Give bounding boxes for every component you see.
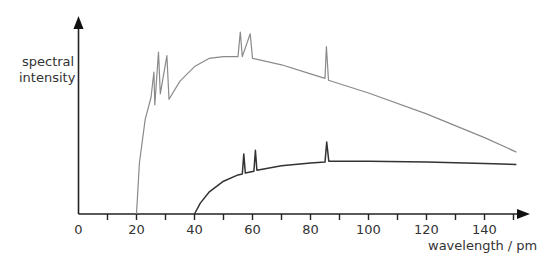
x-tick-label: 80 — [302, 222, 319, 237]
x-axis-label: wavelength / pm — [428, 238, 537, 253]
x-tick-label: 0 — [74, 222, 82, 237]
y-axis-label-line2: intensity — [19, 70, 76, 85]
x-tick-label: 100 — [356, 222, 381, 237]
x-tick-label: 40 — [186, 222, 203, 237]
y-axis-arrow-icon — [74, 16, 84, 29]
x-tick-label: 20 — [128, 222, 145, 237]
x-axis-arrow-icon — [517, 209, 530, 219]
x-tick-label: 140 — [472, 222, 497, 237]
y-axis-label-line1: spectral — [22, 54, 74, 69]
x-axis-tick-labels: 020406080100120140 — [74, 222, 497, 237]
lower-spectrum-curve — [195, 142, 517, 214]
upper-spectrum-curve — [137, 32, 517, 214]
x-tick-label: 60 — [244, 222, 261, 237]
spectrum-chart: 020406080100120140 spectral intensity wa… — [0, 0, 543, 268]
x-tick-label: 120 — [414, 222, 439, 237]
x-axis-ticks — [108, 214, 514, 220]
